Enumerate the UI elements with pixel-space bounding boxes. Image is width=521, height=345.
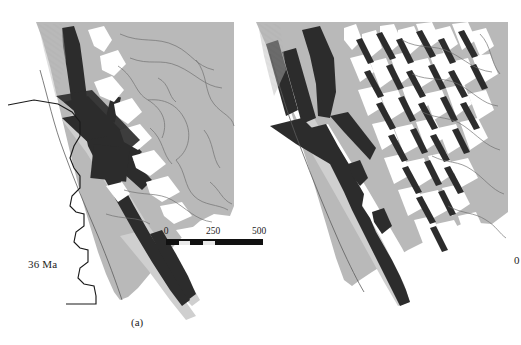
figure-container: 36 Ma 0 250 500 (a) (0, 0, 521, 345)
age-label-a: 36 Ma (28, 258, 57, 270)
map-a (0, 0, 252, 345)
scale-tick-250-a: 250 (206, 226, 220, 236)
caption-a: (a) (131, 316, 143, 328)
scale-bar-body-a (166, 239, 263, 245)
scale-ticks-a: 0 250 500 (163, 226, 263, 239)
map-b (252, 0, 521, 345)
scale-bar-a: 0 250 500 (163, 226, 263, 245)
scale-tick-0-a: 0 (164, 226, 169, 236)
panel-a: 36 Ma 0 250 500 (a) (0, 0, 252, 345)
panel-b: 0 Ma 0 250 500 (b) (252, 0, 521, 345)
age-label-b: 0 Ma (514, 254, 521, 266)
